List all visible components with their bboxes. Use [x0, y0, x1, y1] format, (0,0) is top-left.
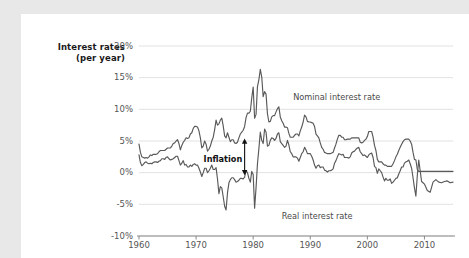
y-tick-label: 20%: [103, 42, 133, 51]
x-tick-label: 2000: [357, 241, 379, 250]
y-tick-label: 10%: [103, 105, 133, 114]
x-tick-label: 1960: [128, 241, 150, 250]
x-tick-label: 1980: [242, 241, 264, 250]
inflation-annotation-label: Inflation: [204, 154, 243, 164]
y-tick-label: 0%: [103, 168, 133, 177]
gridlines: [139, 46, 453, 236]
y-axis-title-line2: (per year): [76, 53, 125, 64]
nominal-interest-rate-label: Nominal interest rate: [293, 92, 380, 102]
y-tick-label: 5%: [103, 137, 133, 146]
y-tick-label: 15%: [103, 73, 133, 82]
x-tick-label: 1990: [299, 241, 321, 250]
x-tick-label: 2010: [414, 241, 436, 250]
real-interest-rate-label: Real interest rate: [282, 211, 353, 221]
inflation-arrow-icon: [242, 138, 247, 175]
interest-rates-chart: Interest rates (per year) 20%15%10%5%0%-…: [21, 14, 469, 258]
y-tick-label: -5%: [103, 200, 133, 209]
x-tick-label: 1970: [185, 241, 207, 250]
figure-panel: Interest rates (per year) 20%15%10%5%0%-…: [21, 14, 469, 258]
data-series-group: [139, 69, 453, 210]
